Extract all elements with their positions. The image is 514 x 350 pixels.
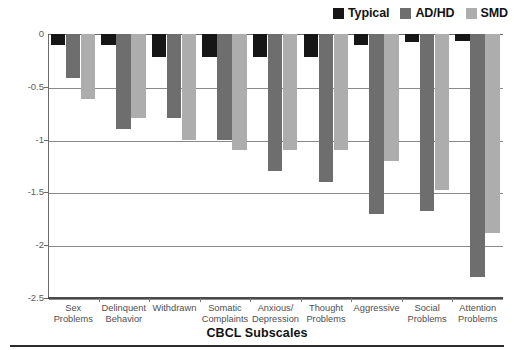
bar-typical: [354, 34, 368, 45]
bar-group: [455, 34, 500, 298]
x-category-label: SomaticComplaints: [200, 303, 251, 325]
x-tick-mark: [402, 298, 403, 302]
legend-label: AD/HD: [415, 7, 454, 20]
x-category-label-line: Anxious/: [250, 303, 301, 314]
x-category-label: AttentionProblems: [452, 303, 503, 325]
bar-typical: [405, 34, 419, 42]
x-tick-mark: [200, 298, 201, 302]
bar-typical: [51, 34, 65, 45]
legend-entry-typical: Typical: [333, 7, 389, 20]
x-category-label: Aggressive: [351, 303, 402, 314]
bar-group: [304, 34, 349, 298]
x-category-label-line: Attention: [452, 303, 503, 314]
legend-label: Typical: [348, 7, 389, 20]
y-tick-label: -1: [4, 135, 44, 145]
bar-ad-hd: [116, 34, 130, 129]
x-tick-mark: [351, 298, 352, 302]
x-category-label-line: Problems: [452, 314, 503, 325]
x-tick-mark: [149, 298, 150, 302]
bar-group: [51, 34, 96, 298]
x-tick-mark: [301, 298, 302, 302]
legend-label: SMD: [481, 7, 508, 20]
y-tick-label: -0.5: [4, 82, 44, 92]
x-category-label-line: Depression: [250, 314, 301, 325]
legend-swatch-icon: [333, 8, 344, 19]
x-axis-title: CBCL Subscales: [0, 326, 514, 340]
bar-ad-hd: [167, 34, 181, 118]
legend-entry-smd: SMD: [466, 7, 508, 20]
bar-typical: [202, 34, 216, 57]
bar-smd: [334, 34, 348, 150]
bar-ad-hd: [420, 34, 434, 211]
x-category-label-line: Delinquent: [99, 303, 150, 314]
x-category-label: Withdrawn: [149, 303, 200, 314]
bar-ad-hd: [268, 34, 282, 171]
legend-swatch-icon: [400, 8, 411, 19]
x-category-label-line: Sex: [48, 303, 99, 314]
bar-group: [202, 34, 247, 298]
x-category-label: ThoughtProblems: [301, 303, 352, 325]
x-category-label-line: Somatic: [200, 303, 251, 314]
bar-typical: [455, 34, 469, 41]
x-category-label: Anxious/Depression: [250, 303, 301, 325]
x-category-label-line: Social: [402, 303, 453, 314]
bar-typical: [304, 34, 318, 57]
bar-group: [354, 34, 399, 298]
x-category-label-line: Aggressive: [351, 303, 402, 314]
x-category-label-line: Complaints: [200, 314, 251, 325]
bar-smd: [131, 34, 145, 118]
bar-typical: [152, 34, 166, 57]
legend-swatch-icon: [466, 8, 477, 19]
y-tick-label: -2.5: [4, 293, 44, 303]
bar-ad-hd: [369, 34, 383, 214]
chart-legend: TypicalAD/HDSMD: [333, 5, 508, 21]
bar-typical: [101, 34, 115, 45]
figure-bottom-rule: [10, 345, 504, 347]
bar-smd: [81, 34, 95, 99]
bar-smd: [232, 34, 246, 150]
bar-typical: [253, 34, 267, 57]
y-tick-label: 0: [4, 29, 44, 39]
bar-group: [101, 34, 146, 298]
legend-entry-ad-hd: AD/HD: [400, 7, 454, 20]
x-category-label-line: Problems: [402, 314, 453, 325]
bar-group: [253, 34, 298, 298]
bar-ad-hd: [470, 34, 484, 277]
bar-smd: [485, 34, 499, 233]
bar-ad-hd: [319, 34, 333, 182]
y-tick-mark: [44, 298, 48, 299]
x-tick-mark: [250, 298, 251, 302]
bar-smd: [283, 34, 297, 150]
bar-group: [405, 34, 450, 298]
x-category-label: DelinquentBehavior: [99, 303, 150, 325]
bars-layer: [48, 34, 503, 298]
bar-ad-hd: [66, 34, 80, 78]
chart-figure: TypicalAD/HDSMD 0-0.5-1-1.5-2-2.5 SexPro…: [0, 0, 514, 350]
bar-smd: [182, 34, 196, 140]
y-tick-label: -1.5: [4, 187, 44, 197]
bar-group: [152, 34, 197, 298]
x-category-label: SexProblems: [48, 303, 99, 325]
x-category-label: SocialProblems: [402, 303, 453, 325]
bar-smd: [384, 34, 398, 161]
y-tick-label: -2: [4, 240, 44, 250]
x-category-label-line: Behavior: [99, 314, 150, 325]
bar-ad-hd: [217, 34, 231, 140]
gridline: [49, 299, 503, 300]
x-tick-mark: [99, 298, 100, 302]
x-tick-mark: [452, 298, 453, 302]
bar-smd: [435, 34, 449, 190]
x-category-label-line: Thought: [301, 303, 352, 314]
x-category-label-line: Withdrawn: [149, 303, 200, 314]
x-category-label-line: Problems: [48, 314, 99, 325]
x-category-label-line: Problems: [301, 314, 352, 325]
